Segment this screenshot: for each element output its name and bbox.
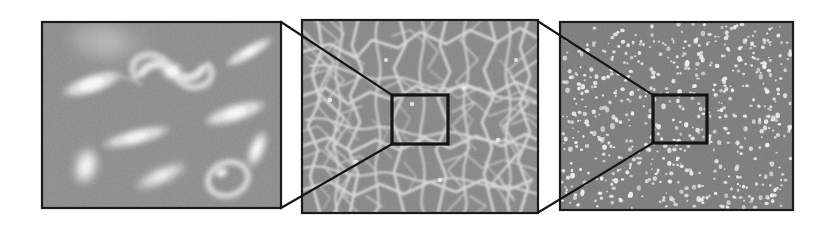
cosmic-web-panel xyxy=(300,20,538,213)
panel2-grain xyxy=(302,20,538,213)
figure-root xyxy=(0,0,840,225)
panel1-grain xyxy=(42,22,281,208)
point-distribution-panel xyxy=(560,22,793,210)
figure-canvas xyxy=(0,0,840,225)
panel3-grain xyxy=(560,22,793,210)
galaxy-field-panel xyxy=(42,20,281,208)
